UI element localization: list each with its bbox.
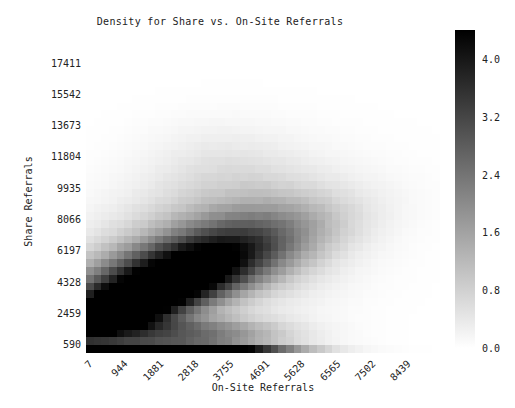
y-tick-label: 590 — [0, 339, 81, 350]
y-tick-label: 17411 — [0, 57, 81, 68]
colorbar-gradient — [455, 30, 475, 348]
colorbar-tick-label: 2.4 — [482, 169, 500, 180]
plot-area — [86, 40, 440, 353]
chart-title: Density for Share vs. On-Site Referrals — [0, 16, 440, 27]
y-tick-label: 6197 — [0, 245, 81, 256]
colorbar-tick-label: 4.0 — [482, 53, 500, 64]
y-tick-label: 2459 — [0, 307, 81, 318]
heatmap-canvas — [86, 40, 440, 353]
colorbar-tick-label: 1.6 — [482, 227, 500, 238]
colorbar — [455, 30, 475, 348]
y-tick-label: 9935 — [0, 182, 81, 193]
density-heatmap-figure: Density for Share vs. On-Site Referrals … — [0, 0, 515, 408]
colorbar-tick-label: 0.8 — [482, 285, 500, 296]
y-tick-label: 13673 — [0, 120, 81, 131]
y-tick-label: 11804 — [0, 151, 81, 162]
y-tick-label: 4328 — [0, 276, 81, 287]
colorbar-tick-label: 3.2 — [482, 111, 500, 122]
y-tick-label: 15542 — [0, 88, 81, 99]
y-tick-label: 8066 — [0, 214, 81, 225]
x-axis-title: On-Site Referrals — [86, 382, 440, 393]
colorbar-tick-label: 0.0 — [482, 343, 500, 354]
y-axis-title: Share Referrals — [23, 132, 34, 272]
